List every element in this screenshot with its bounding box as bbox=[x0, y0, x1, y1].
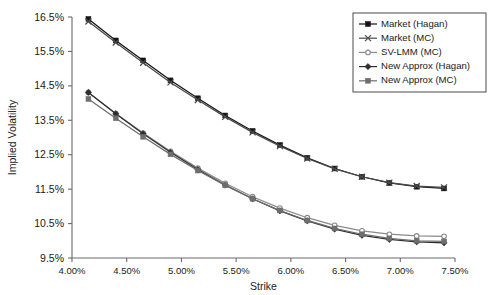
data-point-square bbox=[305, 218, 310, 223]
series-line bbox=[88, 92, 444, 242]
legend-label: New Approx (Hagan) bbox=[381, 60, 470, 71]
y-tick-label: 15.5% bbox=[34, 45, 64, 57]
y-tick-label: 16.5% bbox=[34, 11, 64, 23]
legend-label: Market (MC) bbox=[381, 32, 434, 43]
x-tick-label: 4.50% bbox=[113, 265, 140, 276]
data-point-square bbox=[113, 116, 118, 121]
chart-figure: 9.5%10.5%11.5%12.5%13.5%14.5%15.5%16.5%4… bbox=[0, 0, 498, 295]
y-tick-label: 13.5% bbox=[34, 114, 64, 126]
y-axis-title: Implied Volatility bbox=[6, 99, 18, 175]
y-tick-label: 12.5% bbox=[34, 148, 64, 160]
series-line bbox=[88, 92, 444, 236]
y-tick-label: 11.5% bbox=[35, 183, 64, 195]
data-point-circle bbox=[442, 234, 447, 239]
data-point-square bbox=[223, 183, 228, 188]
data-point-square bbox=[168, 152, 173, 157]
chart-canvas: 9.5%10.5%11.5%12.5%13.5%14.5%15.5%16.5%4… bbox=[0, 0, 498, 295]
data-point-square bbox=[195, 168, 200, 173]
data-point-square bbox=[86, 97, 91, 102]
x-tick-label: 6.00% bbox=[277, 265, 304, 276]
x-tick-label: 5.50% bbox=[223, 265, 250, 276]
series-4 bbox=[85, 89, 447, 246]
x-tick-label: 6.50% bbox=[332, 265, 359, 276]
data-point-square bbox=[332, 226, 337, 231]
x-axis-title: Strike bbox=[250, 280, 277, 292]
data-point-square bbox=[414, 238, 419, 243]
y-tick-label: 9.5% bbox=[40, 252, 64, 264]
data-point-circle bbox=[366, 50, 371, 55]
x-tick-label: 4.00% bbox=[59, 265, 86, 276]
data-point-square bbox=[141, 134, 146, 139]
y-tick-label: 10.5% bbox=[34, 217, 64, 229]
data-point-square bbox=[366, 78, 371, 83]
x-tick-label: 5.00% bbox=[168, 265, 195, 276]
data-point-square bbox=[250, 196, 255, 201]
data-point-circle bbox=[414, 234, 419, 239]
y-tick-label: 14.5% bbox=[34, 79, 64, 91]
data-point-square bbox=[366, 22, 371, 27]
legend-label: Market (Hagan) bbox=[381, 18, 448, 29]
series-3 bbox=[86, 90, 446, 239]
legend: Market (Hagan)Market (MC)SV-LMM (MC)New … bbox=[353, 13, 486, 92]
data-point-square bbox=[387, 236, 392, 241]
series-5 bbox=[86, 97, 446, 244]
legend-label: New Approx (MC) bbox=[381, 74, 457, 85]
data-point-square bbox=[442, 239, 447, 244]
data-point-square bbox=[360, 232, 365, 237]
legend-label: SV-LMM (MC) bbox=[381, 46, 442, 57]
series-line bbox=[88, 99, 444, 242]
x-tick-label: 7.50% bbox=[442, 265, 469, 276]
x-tick-label: 7.00% bbox=[387, 265, 414, 276]
data-point-square bbox=[278, 208, 283, 213]
